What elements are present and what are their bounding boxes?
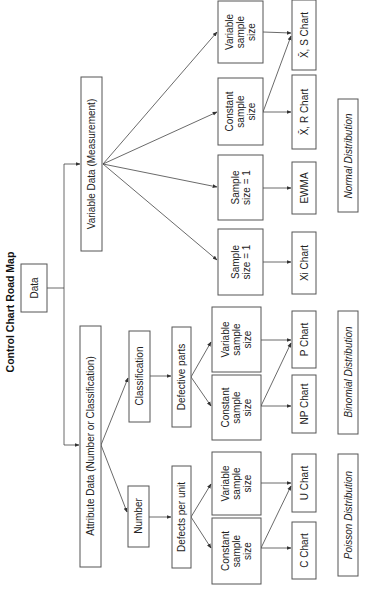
sample-node-line: Constant (220, 531, 231, 571)
node-defective-parts: Defective parts (172, 327, 191, 427)
chart-node-u: U Chart (292, 454, 316, 512)
sample-node-line: size (242, 542, 253, 560)
distribution-poisson-label: Poisson Distribution (343, 470, 354, 559)
connector-constant-to-u (261, 486, 291, 548)
connector-defects-constant (191, 517, 211, 548)
connector-attr-number (101, 445, 127, 512)
chart-node-label: P Chart (299, 322, 310, 356)
sample-size-nodes: VariablesamplesizeConstantsamplesizeSamp… (212, 1, 263, 584)
diagram-title: Control Chart Road Map (4, 252, 16, 373)
sample-node-num-constant: Constantsamplesize (212, 518, 261, 584)
node-defective-parts-label: Defective parts (176, 344, 187, 411)
sample-node-line: Sample (230, 245, 241, 279)
node-defects-per-unit: Defects per unit (172, 466, 191, 568)
chart-node-ewma: EWMA (292, 162, 316, 214)
sample-node-cls-variable: Variablesamplesize (212, 307, 261, 372)
node-number: Number (128, 486, 149, 547)
sample-node-var-constant: Constantsamplesize (218, 78, 263, 145)
sample-node-var-xi: Samplesize = 1 (218, 229, 263, 295)
sample-node-line: sample (231, 467, 242, 500)
sample-node-line: sample (231, 391, 242, 424)
sample-node-line: sample (231, 534, 242, 567)
sample-node-line: sample (235, 95, 246, 128)
node-number-label: Number (133, 498, 144, 534)
chart-node-c: C Chart (292, 522, 316, 579)
distribution-binomial-label: Binomial Distribution (343, 326, 354, 418)
distribution-poisson: Poisson Distribution (338, 454, 358, 576)
chart-node-label: U Chart (299, 466, 310, 501)
connector-defective-constant (191, 377, 211, 406)
chart-node-label: Xi Chart (299, 245, 310, 281)
sample-node-line: size (242, 330, 253, 348)
connector-var-constant (103, 112, 217, 164)
chart-node-label: EWMA (299, 172, 310, 203)
connector-constant-to-xbar-s (263, 36, 291, 112)
connector-to-xbar-s (263, 32, 291, 33)
sample-node-line: Variable (220, 465, 231, 501)
connector-defects-variable (191, 484, 211, 517)
chart-node-xbar-s: X̄, S Chart (292, 0, 316, 70)
chart-node-label: NP Chart (299, 383, 310, 424)
connector-defective-variable (191, 342, 211, 377)
sample-node-line: sample (231, 323, 242, 356)
node-attribute-data-label: Attribute Data (Number or Classification… (85, 356, 96, 536)
chart-node-label: C Chart (299, 533, 310, 568)
connector-attr-classification (101, 378, 128, 445)
connector-var-ewma (103, 164, 217, 187)
sample-node-line: Constant (224, 91, 235, 131)
chart-node-p: P Chart (292, 311, 316, 368)
sample-node-line: Variable (224, 14, 235, 50)
node-variable-data-label: Variable Data (Measurement) (86, 99, 97, 229)
sample-node-line: size (242, 474, 253, 492)
sample-node-var-variable: Variablesamplesize (218, 1, 263, 63)
chart-node-label: X̄, R Chart (298, 88, 310, 135)
sample-node-line: size (242, 398, 253, 416)
connector-constant-to-p (261, 343, 291, 406)
node-attribute-data: Attribute Data (Number or Classification… (80, 326, 101, 567)
sample-node-line: size (246, 102, 257, 120)
sample-node-cls-constant: Constantsamplesize (212, 375, 261, 440)
sample-node-var-ewma: Samplesize = 1 (218, 155, 263, 220)
chart-node-xbar-r: X̄, R Chart (292, 75, 316, 149)
chart-node-xi: Xi Chart (292, 232, 316, 294)
sample-node-line: size = 1 (241, 170, 252, 205)
chart-node-label: X̄, S Chart (298, 12, 310, 58)
sample-node-line: size (246, 23, 257, 41)
chart-nodes: X̄, S ChartX̄, R ChartEWMAXi ChartP Char… (292, 0, 316, 579)
connector-var-variable (103, 32, 217, 164)
node-defects-per-unit-label: Defects per unit (176, 482, 187, 552)
node-variable-data: Variable Data (Measurement) (81, 77, 102, 251)
sample-node-line: Constant (220, 387, 231, 427)
sample-node-line: size = 1 (241, 244, 252, 279)
distribution-normal: Normal Distribution (338, 99, 358, 212)
sample-node-line: Sample (230, 170, 241, 204)
control-chart-road-map-diagram: Control Chart Road Map Data Variable Dat… (0, 0, 368, 599)
distribution-normal-label: Normal Distribution (343, 113, 354, 198)
node-data: Data (21, 264, 47, 312)
distribution-binomial: Binomial Distribution (338, 311, 358, 434)
node-classification-label: Classification (134, 347, 145, 406)
chart-node-np: NP Chart (292, 375, 316, 433)
node-classification: Classification (129, 331, 150, 422)
sample-node-line: sample (235, 15, 246, 48)
sample-node-line: Variable (220, 321, 231, 357)
sample-node-num-variable: Variablesamplesize (212, 452, 261, 515)
node-data-label: Data (29, 277, 40, 299)
connector-var-xi (103, 164, 217, 260)
